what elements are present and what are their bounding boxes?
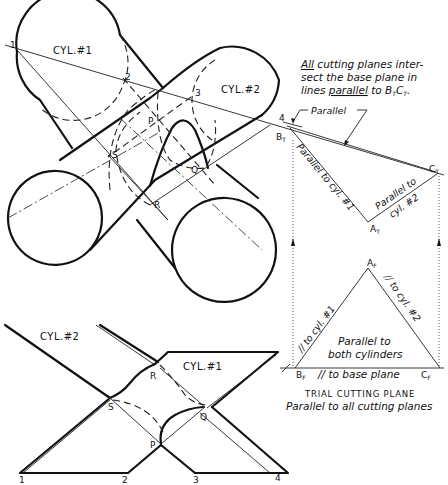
vertex-af-label: AF bbox=[367, 258, 377, 269]
top-view: 1 2 3 4 P Q R S CYL.#1 CYL.#2 bbox=[5, 0, 444, 302]
caption-title: TRIAL CUTTING PLANE bbox=[304, 389, 415, 399]
callout-leader-right bbox=[345, 110, 367, 143]
center-label-1: Parallel to bbox=[338, 335, 391, 347]
dash-line-2-q bbox=[123, 78, 215, 185]
front-point-2-label: 2 bbox=[122, 475, 128, 485]
point-4-label: 4 bbox=[279, 113, 285, 123]
point-q-label: Q bbox=[191, 165, 198, 175]
point-3-label: 3 bbox=[195, 88, 201, 98]
line-s-r bbox=[108, 155, 168, 220]
caption: TRIAL CUTTING PLANE Parallel to all cutt… bbox=[286, 389, 433, 412]
point-1-label: 1 bbox=[10, 40, 16, 50]
callout-leader-left bbox=[293, 110, 308, 122]
arrowhead-left-icon bbox=[291, 118, 295, 124]
cylinder-1-upper-edge bbox=[217, 165, 258, 198]
edge-1-s-inner bbox=[23, 400, 110, 473]
front-curve-s-r bbox=[110, 364, 155, 398]
top-triangle: BT CT AT Parallel to cyl. #1 Parallel to… bbox=[276, 126, 439, 235]
edge-q-4-inner bbox=[200, 413, 270, 473]
arrow-up-left-icon bbox=[291, 238, 295, 246]
point-2-label: 2 bbox=[125, 72, 131, 82]
centerline-cylinder-2 bbox=[8, 132, 160, 218]
front-point-1-label: 1 bbox=[19, 475, 25, 485]
line-1-to-r bbox=[17, 50, 168, 220]
note-line-1: All cutting planes inter- bbox=[300, 58, 423, 70]
vertex-bt-label: BT bbox=[276, 132, 286, 143]
parallel-callout-label: Parallel bbox=[311, 105, 346, 116]
line-r-q bbox=[160, 368, 205, 407]
front-point-4-label: 4 bbox=[275, 473, 281, 483]
cylinder-1-end-circle bbox=[172, 198, 276, 302]
caption-subtitle: Parallel to all cutting planes bbox=[286, 400, 433, 412]
cylinder-2-label: CYL.#2 bbox=[221, 84, 260, 95]
note-block: All cutting planes inter- sect the base … bbox=[300, 58, 423, 97]
vertex-ct-label: CT bbox=[429, 164, 439, 175]
arrow-up-right-icon bbox=[437, 238, 441, 246]
line-s-p bbox=[110, 398, 161, 444]
drawing-canvas: 1 2 3 4 P Q R S CYL.#1 CYL.#2 All cuttin… bbox=[0, 0, 448, 485]
line-p-q bbox=[161, 407, 205, 444]
point-p-label: P bbox=[148, 116, 154, 126]
hidden-cylinder-2-end bbox=[192, 60, 215, 140]
front-hidden-s-p bbox=[113, 400, 163, 432]
cylinder-1-lower-edge bbox=[137, 220, 175, 268]
cyl2-lower-right bbox=[161, 407, 288, 473]
note-line-2: sect the base plane in bbox=[301, 71, 417, 83]
vertex-cf-label: CF bbox=[421, 370, 431, 381]
vertex-bf-label: BF bbox=[296, 370, 306, 381]
cylinder-2-end-circle bbox=[8, 171, 102, 265]
point-s-label: S bbox=[112, 150, 118, 160]
front-triangle: BF CF AF // to cyl. #1 // to cyl. #2 Par… bbox=[280, 258, 444, 381]
cylinder-1-label: CYL.#1 bbox=[53, 45, 92, 56]
cyl2-right-edge bbox=[100, 325, 158, 362]
dash-line-3-s bbox=[108, 97, 191, 157]
front-point-p-label: P bbox=[150, 440, 156, 450]
front-point-3-label: 3 bbox=[193, 475, 199, 485]
front-point-s-label: S bbox=[108, 402, 114, 412]
point-r-label: R bbox=[154, 200, 160, 210]
center-label-2: both cylinders bbox=[328, 348, 403, 360]
front-cylinder-2-label: CYL.#2 bbox=[40, 331, 79, 342]
vertex-at-label: AT bbox=[370, 224, 380, 235]
edge-ab-label: Parallel to cyl. #1 bbox=[294, 141, 357, 213]
base-label: // to base plane bbox=[317, 368, 400, 380]
cyl2-right-edge-inner bbox=[96, 325, 155, 365]
front-point-r-label: R bbox=[150, 371, 156, 381]
front-point-q-label: Q bbox=[200, 412, 207, 422]
hidden-curve-right bbox=[158, 92, 216, 168]
front-view: CYL.#2 CYL.#1 1 2 3 4 P Q R S bbox=[5, 325, 288, 485]
cyl1-lower-left bbox=[20, 398, 161, 473]
note-line-3: lines parallel to BTCT. bbox=[301, 84, 410, 97]
front-cylinder-1-label: CYL.#1 bbox=[183, 361, 222, 372]
parallel-tick bbox=[283, 122, 302, 127]
